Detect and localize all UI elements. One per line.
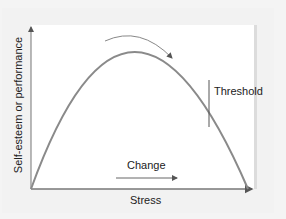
diagram-canvas (0, 0, 286, 219)
change-label: Change (127, 159, 166, 171)
peak-arrow (105, 36, 172, 58)
threshold-label: Threshold (214, 85, 263, 97)
x-axis-label: Stress (130, 194, 161, 206)
y-axis-label: Self-esteem or performance (12, 37, 24, 173)
